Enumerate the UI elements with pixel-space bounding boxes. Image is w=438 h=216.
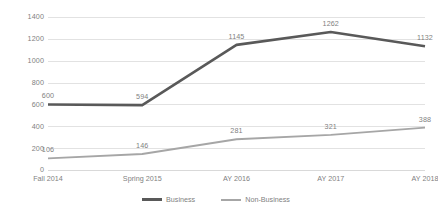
- data-label: 281: [230, 127, 242, 134]
- data-label: 106: [42, 146, 54, 153]
- legend-item-business[interactable]: Business: [142, 196, 195, 203]
- data-label: 146: [136, 142, 148, 149]
- data-label: 594: [136, 93, 148, 100]
- data-label: 1132: [417, 34, 433, 41]
- legend-label-non-business: Non-Business: [245, 196, 290, 203]
- chart-legend: Business Non-Business: [0, 196, 432, 203]
- legend-swatch-non-business-icon: [221, 199, 241, 201]
- data-label: 600: [42, 92, 54, 99]
- data-label: 388: [419, 115, 431, 122]
- legend-label-business: Business: [166, 196, 195, 203]
- legend-item-non-business[interactable]: Non-Business: [221, 196, 290, 203]
- legend-swatch-business-icon: [142, 198, 162, 201]
- data-label: 1262: [323, 20, 339, 27]
- data-label: 1145: [229, 33, 245, 40]
- data-label: 321: [325, 123, 337, 130]
- series-line-business: [48, 32, 425, 105]
